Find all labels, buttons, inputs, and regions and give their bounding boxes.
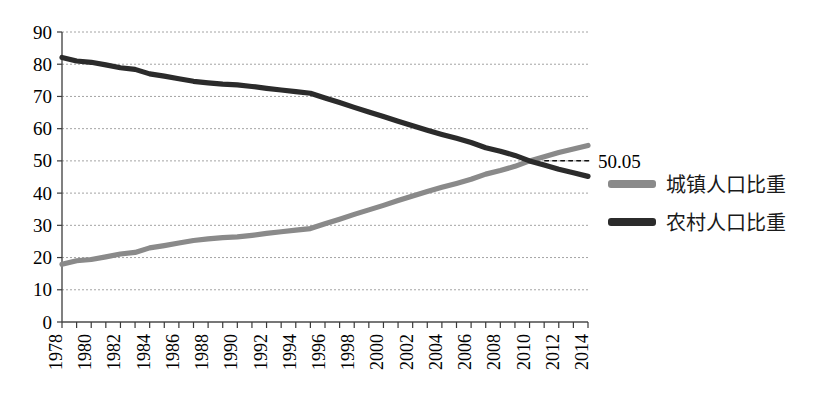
series-line-urban <box>62 145 588 264</box>
y-tick-label-40: 40 <box>33 183 52 204</box>
x-tick-label-1986: 1986 <box>163 334 183 370</box>
x-tick-label-2008: 2008 <box>484 334 504 370</box>
y-tick-label-60: 60 <box>33 118 52 139</box>
x-tick-label-1992: 1992 <box>251 334 271 370</box>
x-tick-label-2010: 2010 <box>514 334 534 370</box>
x-tick-label-2002: 2002 <box>397 334 417 370</box>
y-tick-label-70: 70 <box>33 86 52 107</box>
x-tick-label-1982: 1982 <box>104 334 124 370</box>
x-tick-label-1996: 1996 <box>309 334 329 370</box>
x-tick-label-2014: 2014 <box>572 334 592 370</box>
legend: 城镇人口比重农村人口比重 <box>608 173 786 235</box>
legend-label-rural: 农村人口比重 <box>666 211 786 235</box>
x-tick-label-1998: 1998 <box>338 334 358 370</box>
line-chart: 0102030405060708090 19781980198219841986… <box>0 0 814 401</box>
x-tick-label-2012: 2012 <box>543 334 563 370</box>
y-tick-label-0: 0 <box>43 312 53 333</box>
chart-canvas: 0102030405060708090 19781980198219841986… <box>0 0 814 401</box>
x-tick-label-2000: 2000 <box>367 334 387 370</box>
y-tick-label-10: 10 <box>33 279 52 300</box>
y-tick-labels: 0102030405060708090 <box>33 22 52 333</box>
annotation-value-label: 50.05 <box>598 151 641 172</box>
legend-swatch-urban <box>608 180 656 188</box>
y-tick-label-30: 30 <box>33 215 52 236</box>
x-tick-label-1984: 1984 <box>134 334 154 370</box>
x-tick-label-2004: 2004 <box>426 334 446 370</box>
y-axis <box>57 32 62 322</box>
x-tick-labels: 1978198019821984198619881990199219941996… <box>46 334 592 370</box>
y-tick-label-90: 90 <box>33 22 52 43</box>
x-tick-label-2006: 2006 <box>455 334 475 370</box>
legend-swatch-rural <box>608 218 656 226</box>
series-line-rural <box>62 57 588 176</box>
data-series <box>62 57 588 264</box>
y-tick-label-20: 20 <box>33 247 52 268</box>
x-tick-label-1988: 1988 <box>192 334 212 370</box>
x-tick-label-1980: 1980 <box>75 334 95 370</box>
x-tick-label-1994: 1994 <box>280 334 300 370</box>
y-tick-label-80: 80 <box>33 54 52 75</box>
y-tick-label-50: 50 <box>33 150 52 171</box>
x-tick-label-1978: 1978 <box>46 334 66 370</box>
legend-label-urban: 城镇人口比重 <box>666 173 786 197</box>
x-axis <box>62 322 588 328</box>
x-tick-label-1990: 1990 <box>221 334 241 370</box>
